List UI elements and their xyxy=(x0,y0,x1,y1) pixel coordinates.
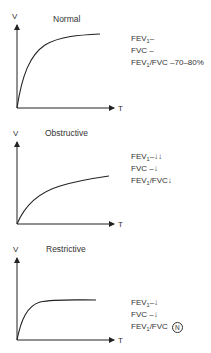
ratio-obstructive: FEV1/FVC↓ xyxy=(131,176,172,188)
normal-graph xyxy=(17,25,114,108)
fev1-obstructive: FEV1–↓↓ xyxy=(131,152,162,164)
fev1-restrictive: FEV1–↓ xyxy=(131,298,158,310)
panel-title-normal: Normal xyxy=(53,15,80,24)
y-axis-label: V xyxy=(12,12,17,21)
x-axis-label: T xyxy=(118,104,123,113)
obstructive-graph xyxy=(17,142,114,224)
fvc-obstructive: FVC –↓ xyxy=(131,164,158,173)
ratio-restrictive: FEV1/FVCN xyxy=(131,322,183,334)
fev1-normal: FEV1– xyxy=(131,34,154,46)
ratio-normal: FEV1/FVC –70–80% xyxy=(131,58,204,70)
restrictive-graph xyxy=(17,258,114,340)
x-axis-label: T xyxy=(118,220,123,229)
fvc-normal: FVC – xyxy=(131,46,154,55)
y-axis-label: V xyxy=(13,129,18,138)
panel-title-restrictive: Restrictive xyxy=(46,245,86,254)
y-axis-label: V xyxy=(13,245,18,254)
spirometry-curves xyxy=(0,0,211,353)
panel-title-obstructive: Obstructive xyxy=(45,129,88,138)
normal-badge: N xyxy=(172,322,183,333)
x-axis-label: T xyxy=(118,336,123,345)
fvc-restrictive: FVC –↓ xyxy=(131,310,158,319)
